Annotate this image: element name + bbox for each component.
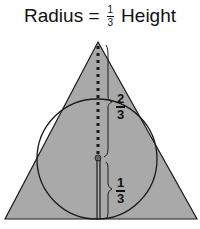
triangle-diagram — [0, 0, 200, 229]
upper-denominator: 3 — [117, 109, 124, 121]
triangle-shape — [5, 42, 197, 219]
upper-fraction-label: 2 3 — [116, 93, 125, 121]
lower-fraction-label: 1 3 — [116, 177, 125, 205]
lower-denominator: 3 — [117, 193, 124, 205]
lower-numerator: 1 — [117, 177, 124, 189]
upper-numerator: 2 — [117, 93, 124, 105]
